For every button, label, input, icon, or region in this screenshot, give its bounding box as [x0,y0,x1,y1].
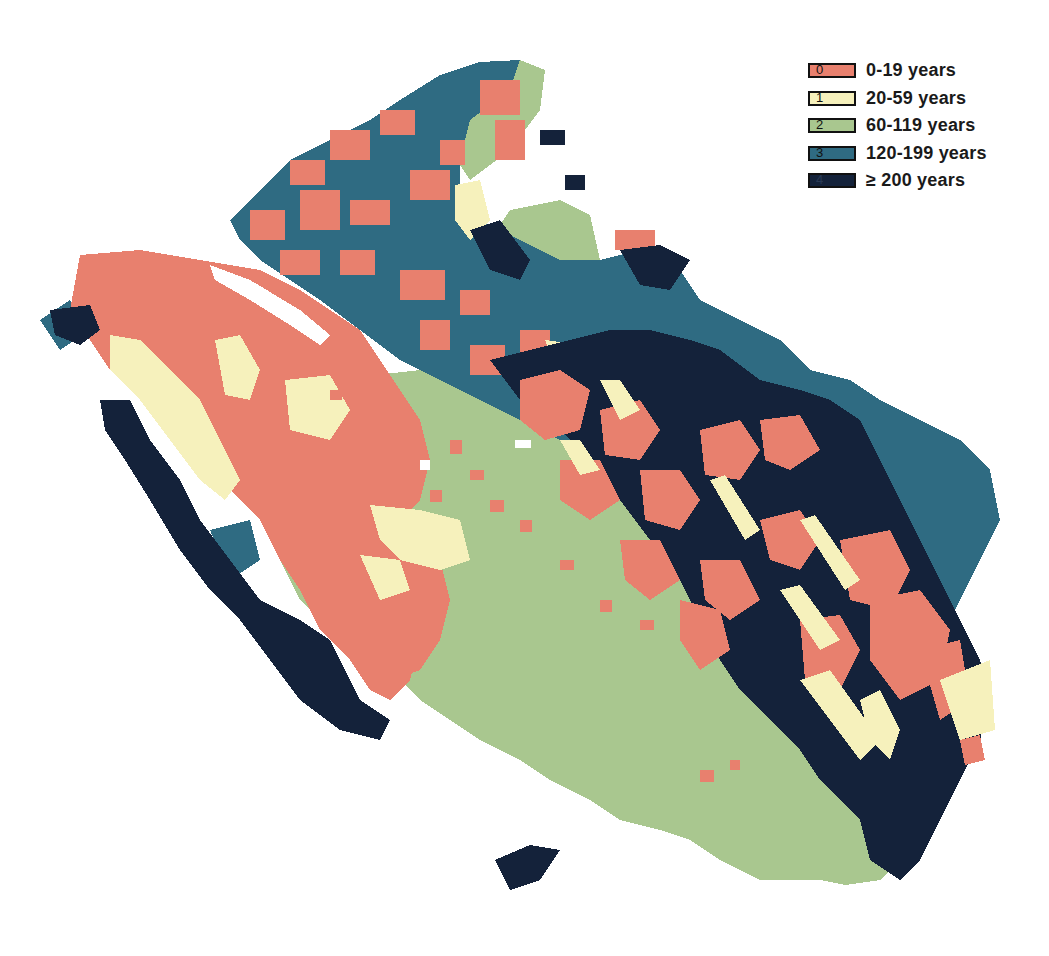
legend-item-0-19: 0 0-19 years [808,57,987,85]
legend-label: ≥ 200 years [866,170,965,191]
swatch-class-2: 2 [808,118,856,133]
swatch-class-4: 4 [808,173,856,188]
legend-label: 60-119 years [866,115,976,136]
swatch-class-1: 1 [808,91,856,106]
legend-item-200-plus: 4 ≥ 200 years [808,167,987,195]
swatch-class-3: 3 [808,146,856,161]
legend-item-60-119: 2 60-119 years [808,112,987,140]
legend-label: 20-59 years [866,88,966,109]
legend-label: 0-19 years [866,60,956,81]
legend-item-120-199: 3 120-199 years [808,140,987,168]
legend-item-20-59: 1 20-59 years [808,85,987,113]
legend-label: 120-199 years [866,143,987,164]
legend: 0 0-19 years 1 20-59 years 2 60-119 year… [808,57,987,195]
swatch-class-0: 0 [808,63,856,78]
